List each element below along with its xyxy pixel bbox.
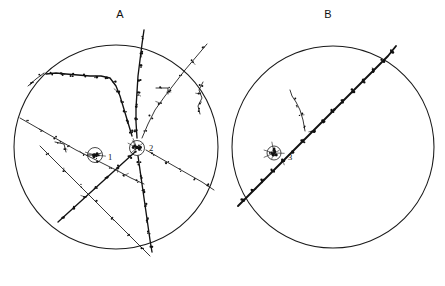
track-grain [140,64,142,66]
track-grain [147,233,148,234]
track-grain [168,87,170,89]
vertex-grain [134,151,136,153]
track-grain [73,206,75,208]
track-grain [125,111,127,113]
track-grain [151,117,153,119]
track-grain [114,81,116,83]
track-grain [135,106,137,108]
vertex-grain [275,154,277,156]
track-grain [160,102,162,104]
track-grain [147,230,149,232]
track-grain [198,110,200,112]
track-grain [143,130,145,132]
track-grain [138,91,140,93]
track-grain [383,60,385,62]
track-grain [80,184,81,185]
track-grain [299,115,300,116]
track-grain [303,141,305,143]
track-grain [96,187,98,189]
track-grain [140,79,142,81]
track-grain [39,129,40,130]
track-grain [142,38,144,40]
track-grain [179,168,181,170]
track-grain [302,139,304,141]
figure-background [0,0,445,286]
track-grain [301,113,303,115]
track-grain [130,157,132,159]
track-grain [105,177,107,179]
track-grain [120,100,122,102]
track-grain [61,217,63,219]
track-grain [38,74,40,76]
track-grain [149,233,151,235]
track-grain [304,125,306,127]
track-grain [53,138,55,140]
track-grain [137,182,138,183]
figure-container: A 12 B 3 [0,0,445,286]
track-grain [148,114,150,116]
track-grain [83,155,84,156]
track-grain [167,92,168,93]
track-grain [353,91,355,93]
track-grain [55,136,57,138]
track-grain [73,207,75,209]
track-grain [191,59,193,61]
track-grain [372,71,374,73]
track-grain [122,174,124,176]
track-grain [201,85,203,87]
track-grain [32,81,34,83]
track-grain [68,145,69,146]
track-grain [96,200,98,202]
track-grain [142,248,144,250]
track-grain [145,130,147,132]
track-grain [141,36,143,38]
track-grain [296,106,297,107]
track-grain [81,187,82,188]
track-grain [51,72,53,74]
track-grain [105,77,107,79]
track-grain [62,170,64,172]
track-grain [151,246,153,248]
track-grain [181,74,182,75]
track-grain [145,205,147,207]
track-grain [143,189,145,191]
track-grain [352,91,354,93]
track-grain [138,80,139,81]
track-grain [270,168,272,170]
vertex-label-2: 2 [149,143,153,153]
track-grain [131,131,133,133]
track-grain [170,90,172,92]
track-grain [84,75,86,77]
track-grain [158,103,160,105]
track-grain [168,161,169,162]
track-grain [260,178,262,180]
track-grain [40,75,41,76]
vertex-label-1: 1 [108,152,112,162]
track-grain [111,167,112,168]
track-grain [380,59,382,61]
track-grain [129,132,131,134]
track-grain [140,161,142,163]
track-grain [123,110,125,112]
track-grain [199,103,201,105]
panel-b-label: B [324,8,331,20]
track-grain [331,111,333,113]
track-grain [261,181,263,183]
track-grain [40,130,42,132]
track-grain [95,186,97,188]
track-grain [179,75,180,76]
track-grain [48,153,49,154]
track-grain [136,104,138,106]
track-grain [117,165,119,167]
track-grain [27,120,29,122]
track-grain [141,247,143,249]
track-grain [118,91,120,93]
track-grain [153,154,155,156]
track-grain [242,200,244,202]
track-grain [161,87,162,88]
track-grain [165,162,167,164]
track-grain [142,190,143,191]
track-grain [203,46,205,48]
track-grain [341,99,343,101]
track-grain [122,101,124,103]
